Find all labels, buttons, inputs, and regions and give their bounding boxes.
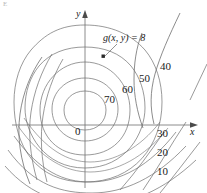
contour-label-70: 70: [104, 94, 115, 105]
constraint-leader-line: [104, 44, 117, 57]
level-curves-figure: E: [0, 0, 207, 193]
contour-label-10: 10: [157, 166, 168, 177]
contour-label-20: 20: [157, 147, 168, 158]
x-axis-label: x: [190, 127, 194, 137]
level-curve-outer: [14, 25, 162, 182]
contour-label-50: 50: [139, 73, 150, 84]
tangency-point-marker: [102, 55, 105, 58]
right-branch-40: [190, 64, 207, 100]
origin-label: 0: [75, 126, 81, 137]
y-axis-arrowhead: [82, 10, 88, 18]
constraint-label: g(x, y) = 8: [103, 33, 145, 43]
contour-label-60: 60: [122, 84, 133, 95]
y-axis-label: y: [76, 9, 80, 19]
contour-label-40: 40: [160, 61, 171, 72]
contour-label-30: 30: [157, 128, 168, 139]
constraint-curve-mirror: [19, 57, 42, 184]
